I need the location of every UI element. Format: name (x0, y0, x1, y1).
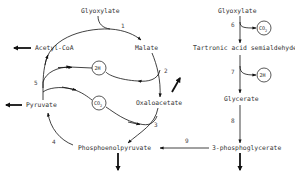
link-3pga-to-pep: 9 (160, 137, 209, 148)
acetyl-coa-branch (43, 55, 48, 88)
step-1: 1 (121, 22, 125, 29)
label-glyoxylate-right: Glyoxylate (218, 7, 257, 15)
arrowhead-co2-left (62, 87, 76, 90)
label-tartronic: Tartronic acid semialdehyde (193, 44, 295, 52)
arrow-step-2 (152, 53, 160, 97)
co2-branch-step-6 (240, 22, 256, 28)
label-glycerate: Glycerate (224, 95, 259, 103)
step-3: 3 (154, 121, 158, 128)
step-2: 2 (164, 67, 168, 74)
glyoxylate-input (98, 16, 110, 29)
2h-branch-step-7 (240, 66, 256, 75)
label-glyoxylate-left: Glyoxylate (81, 7, 120, 15)
label-malate: Malate (135, 44, 158, 52)
cofactor-co2-sub: 2 (100, 104, 102, 108)
step-8: 8 (231, 117, 235, 124)
cofactor-2h-right: 2H (257, 68, 271, 82)
cofactor-2h-label: 2H (95, 65, 101, 71)
2h-to-circle (106, 72, 138, 81)
step-7: 7 (231, 68, 235, 75)
2h-branch-step-2 (138, 70, 160, 81)
label-pyruvate: Pyruvate (26, 101, 57, 109)
cofactor-co2-left: CO 2 (92, 96, 106, 110)
step-5: 5 (34, 79, 38, 86)
oxaloacetate-export-arrow (172, 78, 180, 92)
left-cycle: Glyoxylate Acetyl-CoA Malate Oxaloacetat… (6, 7, 182, 170)
step-6: 6 (231, 21, 235, 28)
label-3pga: 3-phosphoglycerate (212, 144, 281, 152)
right-pathway: Glyoxylate Tartronic acid semialdehyde G… (193, 7, 295, 170)
cofactor-2h-right-label: 2H (260, 72, 266, 78)
arrow-5-to-co2 (43, 88, 92, 100)
cofactor-co2-right: CO 2 (257, 21, 271, 35)
cofactor-co2-right-sub: 2 (265, 29, 267, 33)
arrow-5-to-2h (43, 67, 92, 82)
metabolic-pathway-diagram: Glyoxylate Acetyl-CoA Malate Oxaloacetat… (0, 0, 295, 177)
co2-branch-step-3 (106, 107, 157, 125)
label-oxaloacetate: Oxaloacetate (136, 99, 182, 107)
step-4: 4 (52, 138, 56, 145)
label-acetyl-coa: Acetyl-CoA (35, 44, 74, 52)
label-pep: Phosphoenolpyruvate (78, 144, 151, 152)
step-9: 9 (185, 137, 189, 144)
cofactor-2h-left: 2H (92, 61, 106, 75)
